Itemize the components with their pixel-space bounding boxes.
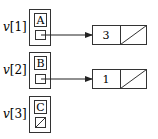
entry-v3: v[3] C <box>3 97 51 133</box>
list-node: 3 <box>93 26 147 45</box>
node-value: 1 <box>103 73 110 86</box>
letter-text: C <box>36 101 44 114</box>
list-node: 1 <box>93 70 147 89</box>
letter-text: A <box>36 14 46 27</box>
node-box <box>93 26 147 45</box>
null-slash-icon <box>121 70 147 89</box>
node-value: 3 <box>103 29 110 42</box>
entry-label: v[3] <box>3 107 27 121</box>
null-slash-icon <box>121 26 147 45</box>
entry-v1: v[1] A 3 <box>3 10 147 46</box>
pointer-diagram: v[1] A 3 v[2] B 1 v[3] C <box>0 0 158 139</box>
letter-text: B <box>36 57 44 70</box>
null-slash-icon <box>36 118 46 128</box>
entry-label: v[2] <box>3 63 27 77</box>
node-box <box>93 70 147 89</box>
entry-label: v[1] <box>3 20 27 34</box>
entry-v2: v[2] B 1 <box>3 53 147 89</box>
